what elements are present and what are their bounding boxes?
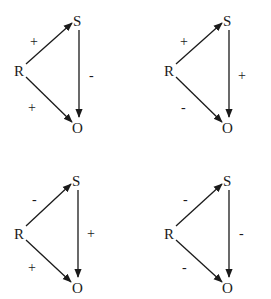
sign-r-to-s: +: [180, 34, 188, 49]
node-s: S: [223, 173, 231, 189]
signed-triad-diagrams: S R O + - + S R O + + - S R O - + + S R …: [0, 0, 271, 299]
node-r: R: [14, 226, 24, 242]
node-o: O: [72, 280, 83, 296]
diagram-top-right: S R O + + -: [164, 13, 246, 136]
sign-r-to-o: -: [182, 260, 187, 275]
sign-r-to-s: +: [30, 34, 38, 49]
node-s: S: [73, 13, 81, 29]
sign-s-to-o: +: [87, 226, 95, 241]
node-o: O: [222, 120, 233, 136]
sign-r-to-o: +: [28, 100, 36, 115]
sign-s-to-o: -: [89, 68, 94, 83]
node-s: S: [72, 173, 80, 189]
node-o: O: [72, 120, 83, 136]
sign-r-to-s: -: [32, 192, 37, 207]
node-r: R: [164, 226, 174, 242]
sign-s-to-o: +: [238, 68, 246, 83]
diagram-bottom-left: S R O - + +: [14, 173, 95, 296]
sign-r-to-o: +: [28, 260, 36, 275]
node-r: R: [14, 63, 24, 79]
diagram-bottom-right: S R O - - -: [164, 173, 244, 296]
sign-r-to-o: -: [181, 100, 186, 115]
node-s: S: [223, 13, 231, 29]
sign-s-to-o: -: [239, 226, 244, 241]
node-r: R: [164, 63, 174, 79]
node-o: O: [222, 280, 233, 296]
diagram-top-left: S R O + - +: [14, 13, 94, 136]
sign-r-to-s: -: [183, 192, 188, 207]
